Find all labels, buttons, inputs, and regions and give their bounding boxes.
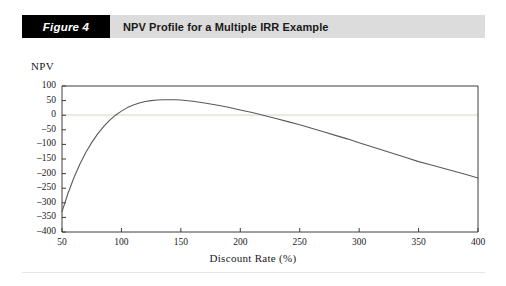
axis-frame xyxy=(62,86,478,232)
chart-area: NPV 100500–50–100–150–200–250–300–350–40… xyxy=(0,0,506,286)
x-axis-label: Discount Rate (%) xyxy=(0,252,506,264)
x-tick-marks xyxy=(62,228,478,232)
page-bottom-rule xyxy=(22,272,485,273)
npv-profile-plot xyxy=(0,0,506,286)
figure-page: Figure 4 NPV Profile for a Multiple IRR … xyxy=(0,0,506,286)
x-axis-label-text: Discount Rate (%) xyxy=(210,252,297,264)
npv-curve xyxy=(62,100,478,212)
